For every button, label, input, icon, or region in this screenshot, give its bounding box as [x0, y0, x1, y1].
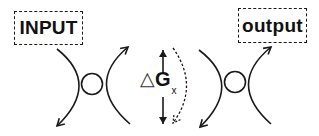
- left-junction-curve-up-right-arrow: [106, 47, 130, 124]
- left-junction: [57, 47, 130, 126]
- left-junction-node-icon: [82, 74, 103, 95]
- delta-variable: G: [155, 68, 171, 90]
- delta-g-label: △Gx: [140, 69, 177, 89]
- diagram-canvas: INPUT output △Gx: [0, 0, 319, 136]
- input-label: INPUT: [20, 17, 78, 39]
- delta-triangle-icon: △: [140, 68, 155, 89]
- right-junction-curve-up-right-arrow: [249, 47, 272, 124]
- output-label: output: [242, 15, 303, 37]
- input-label-box: INPUT: [14, 11, 83, 45]
- right-junction-node-icon: [225, 72, 246, 93]
- right-junction: [199, 47, 271, 127]
- left-junction-curve-down-left-arrow: [57, 49, 79, 126]
- right-junction-curve-down-left-arrow: [199, 50, 222, 127]
- delta-subscript: x: [172, 85, 177, 96]
- output-label-box: output: [238, 8, 307, 43]
